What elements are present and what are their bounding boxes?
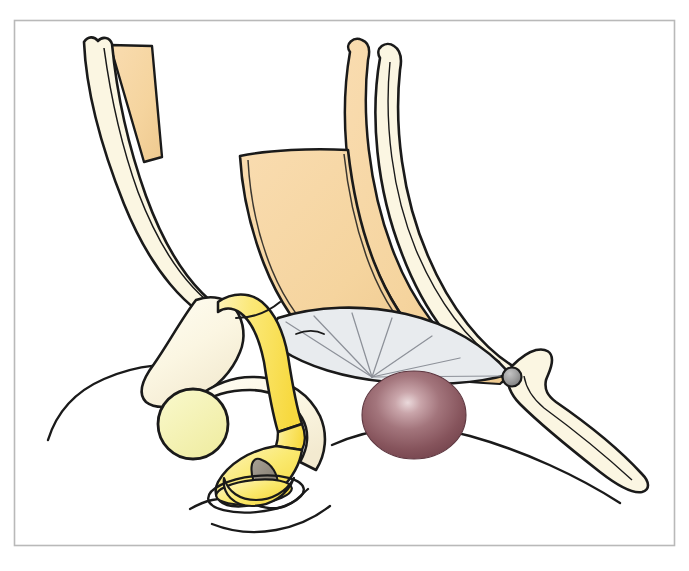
pale-yellow-circle: [158, 389, 228, 459]
sesamoid-node-icon: [503, 368, 522, 387]
anatomical-figure-root: Anatomical sagittal illustration Line-ar…: [0, 0, 689, 571]
maroon-sphere: [362, 371, 466, 459]
anatomical-illustration-canvas: [0, 0, 689, 571]
